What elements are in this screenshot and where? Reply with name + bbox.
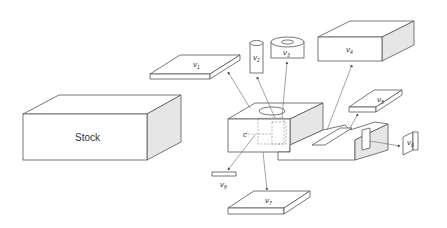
volume-v1: v1	[150, 55, 240, 79]
volume-v5: v5	[349, 90, 402, 112]
svg-text:v8: v8	[220, 180, 227, 190]
feature-label-c: c	[243, 130, 247, 139]
volume-v3: v3	[271, 37, 304, 58]
volume-v6: v6	[403, 132, 418, 155]
volume-v2: v2	[250, 41, 263, 74]
volume-v7: v7	[228, 191, 310, 214]
volume-v4: v4	[318, 21, 414, 61]
stock-block: Stock	[23, 95, 181, 160]
volume-decomposition-diagram: Stock c v1 v2 v3	[0, 0, 447, 228]
volume-v8: v8	[212, 172, 236, 190]
stock-label: Stock	[75, 132, 101, 143]
